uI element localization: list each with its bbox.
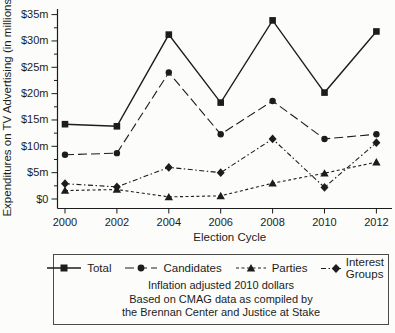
- marker-circle-candidates: [373, 131, 379, 137]
- x-tick-label: 2002: [105, 216, 129, 228]
- marker-triangle-parties: [217, 192, 225, 199]
- y-tick-label: $25m: [21, 61, 49, 73]
- x-tick-label: 2012: [364, 216, 388, 228]
- marker-diamond-interest-groups: [269, 135, 277, 144]
- marker-circle-candidates: [321, 136, 327, 142]
- tv-advertising-expenditures-figure: $0$5m$10m$15m$20m$25m$30m$35m20002002200…: [0, 0, 395, 333]
- y-tick-label: $15m: [21, 113, 49, 125]
- marker-circle-candidates: [166, 69, 172, 75]
- marker-diamond-interest-groups: [165, 163, 173, 172]
- x-axis-title: Election Cycle: [193, 231, 266, 243]
- legend-item-candidates: Candidates: [124, 262, 221, 274]
- legend-item-total: Total: [46, 262, 111, 274]
- y-tick-label: $10m: [21, 140, 49, 152]
- x-tick-label: 2010: [312, 216, 336, 228]
- series-line-candidates: [65, 73, 376, 155]
- legend-row: Total Candidates Parties: [54, 260, 388, 276]
- marker-triangle-parties: [268, 179, 276, 186]
- legend-item-parties: Parties: [235, 262, 308, 274]
- x-tick-label: 2004: [157, 216, 181, 228]
- parties-triangle-marker-icon: [235, 263, 267, 273]
- marker-circle-candidates: [218, 131, 224, 137]
- legend-box: Total Candidates Parties: [53, 254, 389, 325]
- y-tick-label: $30m: [21, 34, 49, 46]
- marker-circle-candidates: [62, 152, 68, 158]
- y-tick-label: $35m: [21, 8, 49, 20]
- candidates-circle-marker-icon: [124, 263, 158, 273]
- y-axis-title: Expenditures on TV Advertising (in milli…: [1, 0, 13, 217]
- series-line-interest-groups: [65, 139, 376, 187]
- note-line-3: the Brennan Center and Justice at Stake: [54, 306, 388, 320]
- total-square-marker-icon: [46, 263, 82, 273]
- series-line-parties: [65, 162, 376, 197]
- marker-square-total: [373, 28, 380, 35]
- line-chart-canvas: $0$5m$10m$15m$20m$25m$30m$35m20002002200…: [0, 0, 395, 250]
- marker-square-total: [166, 31, 173, 38]
- marker-square-total: [321, 89, 328, 96]
- legend-label-parties: Parties: [272, 262, 308, 274]
- note-line-1: Inflation adjusted 2010 dollars: [54, 279, 388, 293]
- legend-label-total: Total: [87, 262, 111, 274]
- x-tick-label: 2008: [260, 216, 284, 228]
- marker-circle-candidates: [269, 98, 275, 104]
- legend-item-interest-groups: Interest Groups: [320, 256, 395, 280]
- marker-diamond-interest-groups: [61, 179, 69, 188]
- marker-square-total: [269, 17, 276, 24]
- marker-diamond-interest-groups: [217, 168, 225, 177]
- source-note: Inflation adjusted 2010 dollars Based on…: [54, 279, 388, 320]
- marker-square-total: [62, 121, 69, 128]
- x-tick-label: 2000: [53, 216, 77, 228]
- marker-square-total: [114, 123, 121, 130]
- interest-groups-diamond-marker-icon: [320, 263, 340, 274]
- marker-triangle-parties: [372, 158, 380, 165]
- note-line-2: Based on CMAG data as compiled by: [54, 293, 388, 307]
- y-tick-label: $20m: [21, 87, 49, 99]
- legend-label-candidates: Candidates: [163, 262, 221, 274]
- x-tick-label: 2006: [208, 216, 232, 228]
- y-tick-label: $0: [36, 193, 48, 205]
- marker-diamond-interest-groups: [113, 182, 121, 191]
- marker-square-total: [217, 99, 224, 106]
- legend-label-interest-groups: Interest Groups: [346, 256, 395, 280]
- marker-circle-candidates: [114, 150, 120, 156]
- y-tick-label: $5m: [27, 166, 48, 178]
- series-line-total: [65, 20, 376, 126]
